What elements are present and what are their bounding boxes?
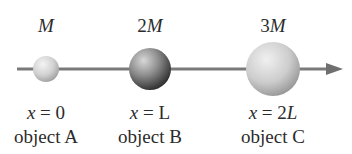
mass-label-b: 2M xyxy=(137,16,162,35)
pos-eq-a: = xyxy=(35,102,55,123)
pos-eq-c: = 2 xyxy=(257,102,287,123)
pos-eq-b: = xyxy=(138,102,158,123)
mass-coef-b: 2 xyxy=(137,15,147,36)
position-label-c: x = 2L xyxy=(249,103,298,122)
mass-label-a: M xyxy=(38,16,54,35)
object-name-a: object A xyxy=(14,127,78,146)
sphere-object-c xyxy=(246,42,300,96)
object-name-b: object B xyxy=(118,127,182,146)
pos-value-b: L xyxy=(159,102,171,123)
mass-var-c: M xyxy=(270,15,286,36)
pos-value-c: L xyxy=(287,102,298,123)
object-name-c: object C xyxy=(241,127,305,146)
mass-var-b: M xyxy=(147,15,163,36)
position-label-b: x = L xyxy=(130,103,170,122)
mass-label-c: 3M xyxy=(260,16,285,35)
position-label-a: x = 0 xyxy=(27,103,65,122)
mass-var-a: M xyxy=(38,15,54,36)
arrowhead-icon xyxy=(326,63,343,75)
sphere-object-a xyxy=(33,56,59,82)
pos-value-a: 0 xyxy=(56,102,66,123)
mass-coef-c: 3 xyxy=(260,15,270,36)
sphere-object-b xyxy=(129,48,171,90)
